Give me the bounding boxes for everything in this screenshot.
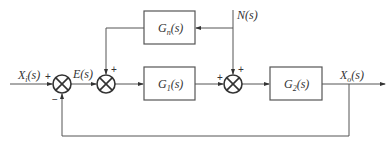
block-diagram: Gn(s) G1(s) G2(s) Xi(s) E(s) N(s) Xo(s) …	[0, 0, 390, 142]
summing-junction-1	[53, 75, 71, 93]
summing-junction-3	[224, 75, 242, 93]
sum1-plus-sign: +	[45, 71, 51, 82]
sum1-minus-sign: −	[52, 94, 58, 105]
sum3-top-plus-sign: +	[238, 64, 244, 75]
sum3-left-plus-sign: +	[217, 72, 223, 83]
output-signal-label: Xo(s)	[339, 68, 364, 84]
error-signal-label: E(s)	[72, 67, 93, 81]
g2-label: G2(s)	[284, 77, 309, 93]
input-signal-label: Xi(s)	[17, 68, 40, 84]
sum2-plus-sign: +	[111, 64, 117, 75]
gn-label: Gn(s)	[158, 21, 183, 37]
g1-label: G1(s)	[158, 77, 183, 93]
disturbance-signal-label: N(s)	[236, 8, 258, 22]
summing-junction-2	[97, 75, 115, 93]
